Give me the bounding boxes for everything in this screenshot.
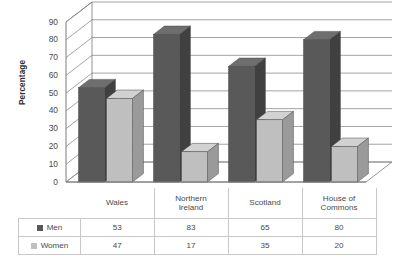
value-cell-women-1: 17 (154, 237, 228, 255)
value-cell-women-0: 47 (81, 237, 155, 255)
category-label-0: Wales (81, 188, 155, 219)
series-legend-cell-men: Men (19, 219, 81, 237)
table-corner-cell (19, 188, 81, 219)
value-cell-men-1: 83 (154, 219, 228, 237)
depth-line (66, 20, 92, 40)
value-cell-men-2: 65 (228, 219, 302, 237)
bar-women-3 (332, 138, 369, 182)
category-label-line: Northern (155, 194, 228, 204)
table-row: Women47173520 (19, 237, 377, 255)
category-header-row: WalesNorthernIrelandScotlandHouse ofComm… (19, 188, 377, 219)
data-table: WalesNorthernIrelandScotlandHouse ofComm… (18, 188, 377, 255)
value-cell-men-3: 80 (302, 219, 376, 237)
depth-line (66, 55, 92, 75)
value-cell-women-3: 20 (302, 237, 376, 255)
category-label-line: Ireland (155, 203, 228, 213)
category-label-2: Scotland (228, 188, 302, 219)
bar-women-1 (182, 143, 219, 182)
category-label-1: NorthernIreland (154, 188, 228, 219)
category-label-3: House ofCommons (302, 188, 376, 219)
series-label: Women (41, 241, 69, 250)
plot-area (0, 0, 409, 200)
category-label-line: Scotland (229, 198, 302, 208)
men-swatch (37, 225, 43, 231)
women-swatch (31, 243, 37, 249)
value-cell-men-0: 53 (81, 219, 155, 237)
bar-chart: Percentage 9080706050403020100 WalesNort… (0, 0, 409, 266)
bar-women-2 (257, 111, 294, 182)
depth-line (66, 38, 92, 58)
top-depth-line (66, 2, 92, 22)
series-label: Men (47, 223, 63, 232)
category-label-line: Commons (303, 203, 376, 213)
category-label-line: Wales (81, 198, 154, 208)
category-label-line: House of (303, 194, 376, 204)
series-legend-cell-women: Women (19, 237, 81, 255)
bar-women-0 (107, 90, 144, 182)
value-cell-women-2: 35 (228, 237, 302, 255)
table-row: Men53836580 (19, 219, 377, 237)
